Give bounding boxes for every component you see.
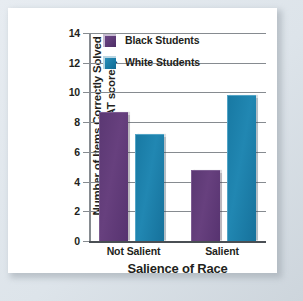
y-tick-label-8: 8 (74, 116, 80, 128)
legend-label-white-students: White Students (125, 56, 200, 68)
bar-chart: Number of Items Correctly Solved (adjust… (0, 0, 303, 301)
x-category-label-not-salient: Not Salient (89, 245, 178, 257)
black-students-swatch-icon (103, 34, 116, 47)
tick-mark-2 (83, 211, 89, 212)
y-tick-label-6: 6 (74, 146, 80, 158)
bar-not-salient-black-students[interactable] (99, 112, 128, 241)
gridline-0: 0 (89, 241, 266, 243)
y-tick-label-14: 14 (69, 27, 80, 39)
legend-item-white-students: White Students (103, 52, 200, 72)
bar-not-salient-white-students[interactable] (135, 134, 164, 241)
white-students-swatch-icon (103, 56, 116, 69)
x-axis-title: Salience of Race (89, 261, 266, 276)
tick-mark-10 (83, 92, 89, 93)
y-tick-label-0: 0 (74, 235, 80, 247)
legend: Black Students White Students (103, 30, 200, 74)
y-tick-label-12: 12 (69, 57, 80, 69)
y-tick-label-4: 4 (74, 176, 80, 188)
y-tick-label-2: 2 (74, 205, 80, 217)
tick-mark-4 (83, 182, 89, 183)
y-tick-label-10: 10 (69, 86, 80, 98)
legend-item-black-students: Black Students (103, 30, 200, 50)
x-category-label-salient: Salient (178, 245, 266, 257)
tick-mark-0 (83, 241, 89, 242)
bar-salient-black-students[interactable] (191, 170, 220, 241)
legend-label-black-students: Black Students (125, 34, 199, 46)
gridline-10: 10 (89, 92, 266, 93)
tick-mark-8 (83, 122, 89, 123)
figure-frame: Number of Items Correctly Solved (adjust… (0, 0, 303, 301)
tick-mark-6 (83, 152, 89, 153)
tick-mark-12 (83, 63, 89, 64)
tick-mark-14 (83, 33, 89, 34)
y-axis-line (89, 33, 91, 241)
bar-salient-white-students[interactable] (227, 95, 256, 241)
